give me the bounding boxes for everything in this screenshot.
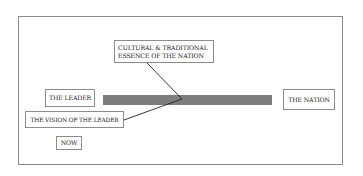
- vision-box: THE VISION OF THE LEADER: [25, 111, 124, 128]
- vision-box-label: THE VISION OF THE LEADER: [30, 116, 118, 124]
- nation-box-label: THE NATION: [288, 96, 330, 104]
- essence-box-line-1: CULTURAL & TRADITIONAL: [118, 44, 208, 52]
- leader-to-nation-bar: [103, 95, 272, 105]
- leader-box: THE LEADER: [45, 89, 95, 107]
- leader-box-label: THE LEADER: [49, 94, 91, 102]
- essence-box-line-2: ESSENCE OF THE NATION: [118, 52, 204, 60]
- essence-box: CULTURAL & TRADITIONAL ESSENCE OF THE NA…: [114, 40, 214, 63]
- now-box: NOW: [56, 136, 82, 150]
- nation-box: THE NATION: [283, 89, 335, 110]
- now-box-label: NOW: [61, 139, 78, 147]
